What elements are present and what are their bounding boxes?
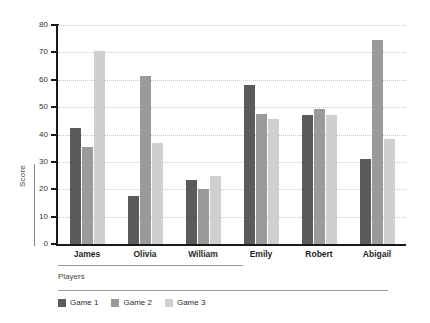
legend-label: Game 3 bbox=[177, 298, 205, 307]
y-axis-tick-mark bbox=[51, 51, 57, 53]
x-axis-title: Players bbox=[58, 272, 85, 281]
legend-label: Game 1 bbox=[70, 298, 98, 307]
y-axis-tick-mark bbox=[51, 79, 57, 81]
y-axis-tick-label: 40 bbox=[22, 131, 48, 139]
gridline bbox=[58, 162, 406, 163]
bar[interactable] bbox=[244, 85, 255, 244]
bar[interactable] bbox=[326, 115, 337, 244]
legend-item[interactable]: Game 2 bbox=[111, 298, 151, 307]
bar[interactable] bbox=[360, 159, 371, 244]
y-axis-tick-label: 60 bbox=[22, 76, 48, 84]
bar[interactable] bbox=[70, 128, 81, 244]
gridline bbox=[58, 25, 406, 26]
gridline bbox=[58, 217, 406, 218]
bar-group bbox=[244, 25, 279, 244]
y-axis-tick-label: 80 bbox=[22, 21, 48, 29]
plot-area bbox=[58, 25, 406, 244]
y-axis-tick-label: 50 bbox=[22, 103, 48, 111]
y-axis-tick-mark bbox=[51, 243, 57, 245]
legend-color-swatch bbox=[58, 299, 66, 307]
y-axis-tick-label: 30 bbox=[22, 158, 48, 166]
y-axis-title-rule bbox=[34, 164, 35, 246]
gridline bbox=[58, 80, 406, 81]
bar[interactable] bbox=[94, 51, 105, 244]
x-axis-category-label: Robert bbox=[290, 249, 348, 259]
y-axis-tick-mark bbox=[51, 216, 57, 218]
gridline bbox=[58, 135, 406, 136]
bar[interactable] bbox=[128, 196, 139, 244]
bar[interactable] bbox=[152, 143, 163, 244]
y-axis-title: Score bbox=[18, 136, 27, 216]
bar-group bbox=[302, 25, 337, 244]
gridline bbox=[58, 52, 406, 53]
legend-divider-rule bbox=[58, 290, 388, 291]
x-axis-category-label: Olivia bbox=[116, 249, 174, 259]
bar[interactable] bbox=[186, 180, 197, 244]
y-axis-tick-label: 0 bbox=[22, 240, 48, 248]
gridline bbox=[58, 189, 406, 190]
bar[interactable] bbox=[140, 76, 151, 244]
bar[interactable] bbox=[314, 109, 325, 245]
bar[interactable] bbox=[268, 119, 279, 244]
y-axis-tick-label: 70 bbox=[22, 48, 48, 56]
y-axis-tick-mark bbox=[51, 106, 57, 108]
bar[interactable] bbox=[372, 40, 383, 244]
category-divider-rule bbox=[58, 265, 243, 266]
bar-group bbox=[360, 25, 395, 244]
gridline bbox=[58, 107, 406, 108]
bar[interactable] bbox=[198, 189, 209, 244]
legend-item[interactable]: Game 3 bbox=[165, 298, 205, 307]
bar-chart-figure: Score 80706050403020100 JamesOliviaWilli… bbox=[0, 0, 430, 323]
y-axis-tick-mark bbox=[51, 188, 57, 190]
legend-color-swatch bbox=[165, 299, 173, 307]
bar[interactable] bbox=[302, 115, 313, 244]
bar-group bbox=[70, 25, 105, 244]
bar[interactable] bbox=[256, 114, 267, 244]
y-axis-tick-mark bbox=[51, 134, 57, 136]
x-axis-category-label: William bbox=[174, 249, 232, 259]
y-axis-tick-label: 10 bbox=[22, 213, 48, 221]
bar[interactable] bbox=[82, 147, 93, 244]
legend-label: Game 2 bbox=[123, 298, 151, 307]
bar-group bbox=[128, 25, 163, 244]
y-axis-tick-label: 20 bbox=[22, 185, 48, 193]
x-axis-category-label: Abigail bbox=[348, 249, 406, 259]
legend-color-swatch bbox=[111, 299, 119, 307]
bar[interactable] bbox=[384, 139, 395, 244]
bar[interactable] bbox=[210, 176, 221, 244]
y-axis-tick-mark bbox=[51, 24, 57, 26]
y-axis-tick-mark bbox=[51, 161, 57, 163]
x-axis-category-label: Emily bbox=[232, 249, 290, 259]
bar-group bbox=[186, 25, 221, 244]
legend-item[interactable]: Game 1 bbox=[58, 298, 98, 307]
x-axis-category-label: James bbox=[58, 249, 116, 259]
chart-legend: Game 1Game 2Game 3 bbox=[58, 298, 205, 307]
